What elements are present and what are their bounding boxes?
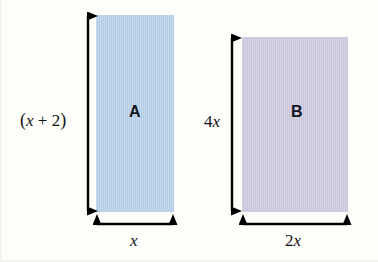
paren-close: ) <box>60 110 66 130</box>
variable-x-value: x <box>130 231 138 250</box>
rectangle-a-width-label: x <box>130 232 138 249</box>
coefficient-two: 2 <box>285 231 294 250</box>
rectangle-b-label: B <box>291 104 303 120</box>
figure-canvas: A B (x + 2) x 4x 2x <box>0 0 378 262</box>
variable-x: x <box>26 111 34 130</box>
rectangle-b-width-label: 2x <box>285 232 301 249</box>
rectangle-b-height-label: 4x <box>204 113 220 130</box>
plus-two: + 2 <box>34 111 61 130</box>
rectangle-a-label: A <box>129 104 141 120</box>
coefficient-four: 4 <box>204 112 213 131</box>
rectangle-a-height-label: (x + 2) <box>20 111 66 129</box>
dimension-arrows <box>0 0 378 262</box>
variable-x-4x: x <box>213 112 221 131</box>
variable-x-2x: x <box>294 231 302 250</box>
